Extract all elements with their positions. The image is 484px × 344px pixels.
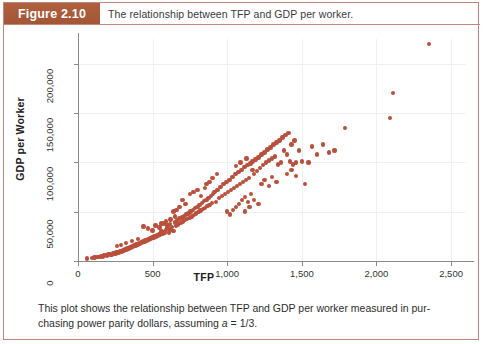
x-tick-label: 2,500 [429, 268, 473, 279]
scatter-point [252, 198, 256, 202]
y-tick-mark [74, 162, 78, 163]
scatter-point [315, 152, 319, 156]
x-tick-label: 1,000 [205, 268, 249, 279]
scatter-point [203, 186, 207, 190]
scatter-point [171, 209, 175, 213]
scatter-point [332, 148, 336, 152]
scatter-point [285, 172, 289, 176]
figure-caption: This plot shows the relationship between… [38, 301, 448, 331]
scatter-point [247, 205, 251, 209]
scatter-point [228, 212, 232, 216]
scatter-point [303, 182, 307, 186]
scatter-point [391, 91, 395, 95]
scatter-point [289, 142, 293, 146]
scatter-point [427, 42, 431, 46]
y-tick-mark [74, 212, 78, 213]
scatter-point [204, 182, 208, 186]
gridline-horizontal [78, 64, 466, 65]
x-tick-label: 1,500 [280, 268, 324, 279]
y-axis-title: GDP per Worker [14, 79, 26, 199]
scatter-point [150, 228, 154, 232]
x-tick-mark [78, 262, 79, 266]
scatter-point [246, 200, 250, 204]
y-axis-line [78, 33, 79, 261]
scatter-point [306, 160, 310, 164]
scatter-point [243, 209, 247, 213]
scatter-point [274, 180, 278, 184]
scatter-point [244, 156, 248, 160]
scatter-point [327, 150, 331, 154]
figure-header: Figure 2.10 The relationship between TFP… [4, 3, 480, 24]
x-tick-mark [302, 262, 303, 266]
scatter-point [300, 159, 304, 163]
scatter-point [259, 182, 263, 186]
scatter-point [199, 194, 203, 198]
scatter-point [159, 221, 163, 225]
x-axis-line [78, 261, 474, 262]
x-tick-label: 0 [56, 268, 100, 279]
caption-line-3: = 1/3. [228, 317, 257, 329]
x-tick-label: 500 [131, 268, 175, 279]
y-tick-label: 0 [43, 261, 57, 305]
scatter-point [286, 131, 290, 135]
gridline-vertical [227, 39, 228, 261]
scatter-point [294, 160, 298, 164]
scatter-point [237, 202, 241, 206]
figure-header-title: The relationship between TFP and GDP per… [108, 3, 474, 24]
scatter-point [238, 160, 242, 164]
scatter-point [256, 202, 260, 206]
scatter-point [310, 144, 314, 148]
x-tick-mark [227, 262, 228, 266]
scatter-point [119, 243, 123, 247]
scatter-point [171, 229, 175, 233]
y-tick-mark [74, 64, 78, 65]
y-tick-label: 150,000 [43, 113, 57, 157]
x-tick-mark [376, 262, 377, 266]
scatter-point [183, 202, 187, 206]
figure-container: Figure 2.10 The relationship between TFP… [3, 2, 479, 340]
gridline-vertical [451, 39, 452, 261]
figure-number-badge: Figure 2.10 [4, 3, 100, 24]
x-tick-mark [153, 262, 154, 266]
scatter-point [234, 164, 238, 168]
gridline-vertical [302, 39, 303, 261]
scatter-plot: GDP per Worker TFP 050,000100,000150,000… [4, 25, 480, 288]
scatter-point [285, 152, 289, 156]
scatter-point [388, 116, 392, 120]
scatter-point [289, 168, 293, 172]
scatter-point [124, 241, 128, 245]
gridline-horizontal [78, 212, 466, 213]
caption-line-2: chasing power parity dollars, assuming [38, 317, 222, 329]
scatter-point [173, 214, 177, 218]
scatter-point [273, 154, 277, 158]
scatter-point [262, 178, 266, 182]
y-tick-label: 50,000 [43, 212, 57, 256]
gridline-vertical [376, 39, 377, 261]
gridline-horizontal [78, 113, 466, 114]
scatter-point [247, 176, 251, 180]
scatter-point [215, 172, 219, 176]
scatter-point [168, 217, 172, 221]
x-tick-mark [451, 262, 452, 266]
scatter-point [292, 138, 296, 142]
caption-line-1: This plot shows the relationship between… [38, 302, 430, 314]
gridline-horizontal [78, 162, 466, 163]
scatter-point [164, 219, 168, 223]
scatter-point [321, 142, 325, 146]
scatter-point [343, 126, 347, 130]
scatter-point [214, 200, 218, 204]
scatter-point [195, 188, 199, 192]
scatter-point [243, 195, 247, 199]
scatter-point [270, 175, 274, 179]
y-tick-label: 200,000 [43, 64, 57, 108]
y-tick-label: 100,000 [43, 162, 57, 206]
scatter-point [85, 256, 89, 260]
y-tick-mark [74, 113, 78, 114]
x-tick-label: 2,000 [354, 268, 398, 279]
scatter-point [249, 192, 253, 196]
scatter-point [297, 148, 301, 152]
scatter-point [279, 160, 283, 164]
scatter-point [210, 176, 214, 180]
scatter-point [294, 174, 298, 178]
scatter-point [267, 184, 271, 188]
